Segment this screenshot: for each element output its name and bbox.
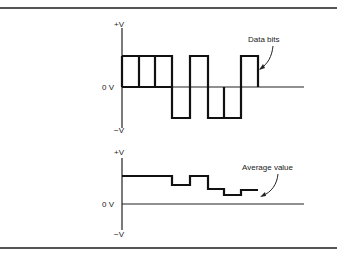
- average-value-annotation: Average value: [242, 163, 294, 172]
- top-minus-v-label: −V: [114, 126, 125, 135]
- waveform-diagram: +V 0 V −V Data bits +V 0 V −V Average va…: [0, 0, 337, 255]
- average-value-graph: +V 0 V −V Average value: [102, 148, 304, 239]
- top-zero-v-label: 0 V: [102, 83, 115, 92]
- bottom-plus-v-label: +V: [114, 148, 125, 157]
- data-bits-graph: +V 0 V −V Data bits: [102, 20, 304, 135]
- bottom-minus-v-label: −V: [114, 230, 125, 239]
- data-bits-arrowhead-icon: [259, 64, 265, 70]
- data-bits-annotation: Data bits: [248, 35, 280, 44]
- average-value-arrowhead-icon: [260, 192, 266, 197]
- data-bits-arrow-icon: [260, 46, 273, 69]
- average-value-waveform: [122, 176, 258, 195]
- top-plus-v-label: +V: [114, 20, 125, 29]
- bottom-zero-v-label: 0 V: [102, 200, 115, 209]
